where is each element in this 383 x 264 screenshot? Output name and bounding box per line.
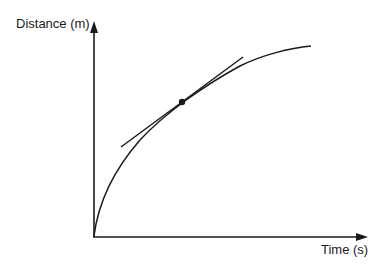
tangent-point-marker [179, 99, 185, 105]
distance-time-curve [94, 46, 311, 236]
x-axis-arrow-icon [356, 233, 368, 241]
distance-time-graph [0, 0, 383, 264]
x-axis-label: Time (s) [321, 242, 368, 257]
y-axis-arrow-icon [90, 21, 98, 33]
y-axis-label: Distance (m) [16, 16, 90, 31]
